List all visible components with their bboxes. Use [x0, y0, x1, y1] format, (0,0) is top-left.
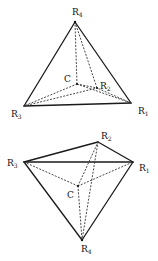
- label-r3: R3: [11, 109, 22, 120]
- edge-r4-r2: [75, 22, 97, 88]
- label-r4: R4: [72, 7, 83, 18]
- label-r1: R1: [139, 163, 150, 174]
- line-c-r2: [78, 142, 98, 186]
- edge-r1-r4: [82, 162, 133, 240]
- edge-r3-r1: [24, 103, 131, 106]
- label-r4: R4: [81, 244, 92, 255]
- vertex-r4: [81, 239, 83, 241]
- vertex-r2: [96, 87, 98, 89]
- tetrahedron-top: R4 C R2 R3 R1: [11, 7, 149, 120]
- label-r1: R1: [138, 106, 149, 117]
- line-c-r4: [78, 186, 82, 240]
- label-c: C: [64, 74, 71, 84]
- line-c-r4: [75, 22, 77, 84]
- line-c-r3: [24, 162, 78, 186]
- vertex-c: [76, 83, 78, 85]
- label-r2: R2: [101, 131, 112, 142]
- label-r2: R2: [100, 81, 111, 92]
- edge-r4-r3: [24, 22, 75, 106]
- vertex-r4: [74, 21, 76, 23]
- edge-r3-r2: [24, 142, 98, 162]
- vertex-c: [77, 185, 79, 187]
- edge-r2-r4: [82, 142, 98, 240]
- tetrahedron-bottom: R2 R3 R1 C R4: [7, 131, 150, 255]
- label-r3: R3: [7, 158, 18, 169]
- tetrahedra-diagram: R4 C R2 R3 R1 R2 R3 R1 C R4: [0, 0, 158, 261]
- line-c-r3: [24, 84, 77, 106]
- label-c: C: [67, 190, 74, 200]
- edge-r3-r4: [24, 162, 82, 240]
- edge-r2-r1: [98, 142, 133, 162]
